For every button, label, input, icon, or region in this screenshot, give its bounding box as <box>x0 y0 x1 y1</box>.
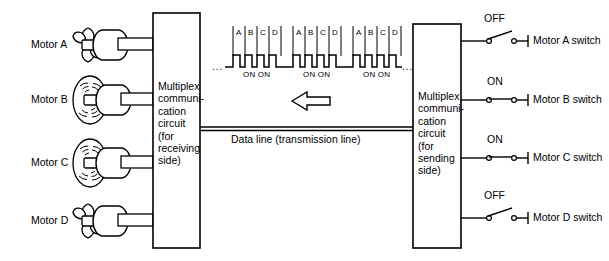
motor-unit-d <box>73 204 153 238</box>
switch-state-d: OFF <box>484 190 505 202</box>
waveform-slot-a: A <box>296 29 301 38</box>
switch-label-d: Motor D switch <box>533 212 602 224</box>
waveform-leading-ellipsis: ... <box>212 61 223 72</box>
waveform-slot-d: D <box>272 29 278 38</box>
left-arrow-icon <box>292 92 330 110</box>
motor-label-a: Motor A <box>31 39 67 51</box>
motor-lead-d <box>118 214 153 226</box>
switch-state-a: OFF <box>484 13 505 25</box>
waveform-slot-a: A <box>356 29 361 38</box>
motor-lead-a <box>118 38 153 50</box>
waveform-slot-b: B <box>368 29 373 38</box>
waveform-trailing-ellipsis: ... <box>402 61 413 72</box>
waveform-slot-c: C <box>260 29 266 38</box>
motor-unit-b <box>73 76 153 124</box>
motor-unit-a <box>73 28 153 62</box>
motor-label-d: Motor D <box>31 215 68 227</box>
waveform-slot-d: D <box>332 29 338 38</box>
waveform-slot-separators <box>233 26 401 56</box>
motor-lead-b <box>121 93 153 105</box>
data-line <box>200 127 413 131</box>
waveform-pulse-train <box>225 55 402 67</box>
switch-state-b: ON <box>487 76 503 88</box>
waveform-slot-a: A <box>236 29 241 38</box>
waveform-slot-c: C <box>320 29 326 38</box>
switch-state-c: ON <box>487 134 503 146</box>
data-line-label: Data line (transmission line) <box>231 134 361 146</box>
switch-contact-d[interactable] <box>461 208 528 224</box>
motor-label-b: Motor B <box>31 94 68 106</box>
diagram-graphics <box>0 0 609 261</box>
waveform-slot-c: C <box>380 29 386 38</box>
motor-unit-c <box>73 139 153 187</box>
waveform-on-label: ON ON <box>243 71 270 80</box>
sending-circuit-label: Multiplex communi- cation circuit (for s… <box>418 90 462 177</box>
switch-label-c: Motor C switch <box>533 152 602 164</box>
switch-contact-a[interactable] <box>461 31 528 47</box>
diagram-canvas: Motor A Motor B Motor C Motor D Multiple… <box>0 0 609 261</box>
receiving-circuit-label: Multiplex communi- cation circuit (for r… <box>158 80 202 167</box>
waveform-on-label: ON ON <box>363 71 390 80</box>
switch-label-b: Motor B switch <box>533 94 602 106</box>
motor-label-c: Motor C <box>31 157 68 169</box>
waveform-slot-b: B <box>308 29 313 38</box>
waveform-slot-b: B <box>248 29 253 38</box>
switch-contact-c[interactable] <box>461 152 528 164</box>
switch-label-a: Motor A switch <box>533 35 601 47</box>
waveform-on-label: ON ON <box>303 71 330 80</box>
switch-contact-b[interactable] <box>461 94 528 106</box>
motor-lead-c <box>121 156 153 168</box>
waveform-slot-d: D <box>392 29 398 38</box>
